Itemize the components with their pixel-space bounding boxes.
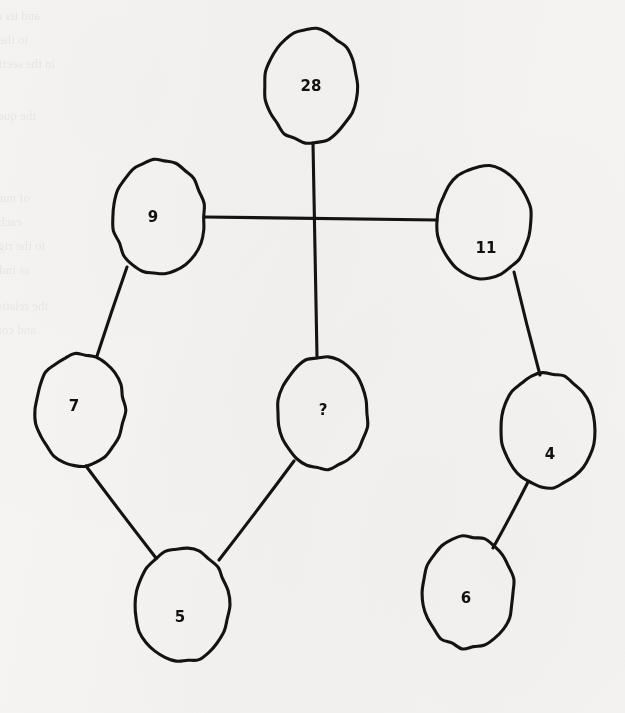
node-layer: 289117?456 xyxy=(35,28,595,661)
edge-n9-n11 xyxy=(205,217,437,220)
edge-n11-n4 xyxy=(514,272,540,375)
number-puzzle-diagram: 289117?456 xyxy=(0,0,625,713)
node-nq[interactable]: ? xyxy=(278,357,368,470)
diagram-page: and its contributionto the answers given… xyxy=(0,0,625,713)
node-outline xyxy=(35,353,126,466)
node-label: 6 xyxy=(461,589,471,607)
node-n7[interactable]: 7 xyxy=(35,353,126,466)
edge-n7-n5 xyxy=(86,466,156,558)
node-label: 28 xyxy=(301,77,322,95)
node-outline xyxy=(501,373,595,489)
node-outline xyxy=(135,548,230,661)
node-label: ? xyxy=(319,401,328,419)
node-outline xyxy=(437,165,531,279)
node-label: 11 xyxy=(476,239,497,257)
node-n5[interactable]: 5 xyxy=(135,548,230,661)
node-label: 5 xyxy=(175,608,185,626)
node-n28[interactable]: 28 xyxy=(265,28,358,143)
edge-n28-nq xyxy=(313,143,317,357)
edge-layer xyxy=(86,143,540,560)
node-n4[interactable]: 4 xyxy=(501,373,595,489)
node-label: 9 xyxy=(148,208,158,226)
node-label: 7 xyxy=(69,397,79,415)
node-label: 4 xyxy=(545,445,555,463)
edge-n5-nq xyxy=(219,461,294,560)
edge-n9-n7 xyxy=(97,267,127,356)
node-n6[interactable]: 6 xyxy=(422,536,514,649)
node-n11[interactable]: 11 xyxy=(437,165,531,279)
node-outline xyxy=(113,159,205,274)
node-n9[interactable]: 9 xyxy=(113,159,205,274)
edge-n4-n6 xyxy=(493,482,528,548)
